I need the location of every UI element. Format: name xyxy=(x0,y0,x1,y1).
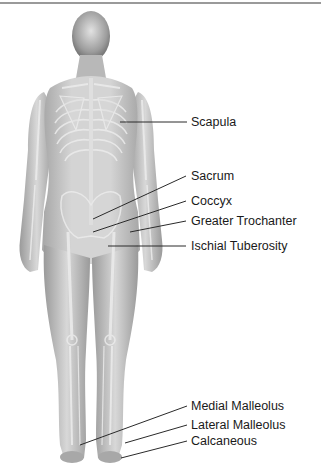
leader-line-lateral-malleolus xyxy=(125,425,187,443)
label-sacrum: Sacrum xyxy=(191,169,234,183)
label-greater-trochanter: Greater Trochanter xyxy=(191,214,297,228)
left-foot xyxy=(60,451,84,463)
right-foot xyxy=(98,451,122,463)
leader-line-medial-malleolus xyxy=(80,406,187,445)
label-scapula: Scapula xyxy=(191,115,236,129)
left-leg xyxy=(44,245,90,458)
label-coccyx: Coccyx xyxy=(191,194,232,208)
head xyxy=(72,11,110,61)
neck xyxy=(76,55,106,78)
label-calcaneous: Calcaneous xyxy=(191,434,257,448)
label-medial-malleolus: Medial Malleolus xyxy=(191,399,284,413)
leader-line-calcaneous xyxy=(121,441,187,458)
label-lateral-malleolus: Lateral Malleolus xyxy=(191,418,286,432)
label-ischial-tuberosity: Ischial Tuberosity xyxy=(191,239,288,253)
